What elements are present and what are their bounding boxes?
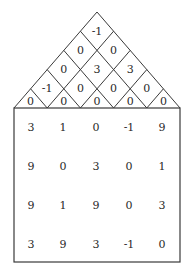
grid-cell: 0 (60, 160, 67, 173)
grid-cell: 0 (159, 238, 166, 251)
triangle-cell: 0 (94, 95, 101, 108)
triangle-cell: -1 (42, 82, 53, 95)
grid-cell: 0 (126, 199, 133, 212)
grid-cell: 3 (28, 238, 35, 251)
grid-cell: 3 (28, 121, 35, 134)
triangle-values: -1 0 0 0 3 3 -1 0 0 0 0 0 0 0 0 (27, 25, 167, 108)
triangle-cell: 0 (160, 95, 167, 108)
grid-cell: -1 (124, 121, 135, 134)
grid-cell: 3 (93, 160, 100, 173)
triangle-cell: -1 (92, 25, 103, 38)
triangle-cell: 0 (110, 82, 117, 95)
grid-cell: 9 (159, 121, 166, 134)
grid-cell: 9 (28, 199, 35, 212)
grid-cell: 9 (28, 160, 35, 173)
triangle-cell: 0 (27, 95, 34, 108)
grid-cell: 1 (60, 121, 67, 134)
triangle-cell: 0 (77, 44, 84, 57)
diagram-canvas: -1 0 0 0 3 3 -1 0 0 0 0 0 0 0 0 3 1 0 -1… (0, 0, 188, 273)
triangle-cell: 0 (60, 95, 67, 108)
triangle-grid-diagram: -1 0 0 0 3 3 -1 0 0 0 0 0 0 0 0 3 1 0 -1… (0, 0, 188, 273)
grid-cell: 9 (93, 199, 100, 212)
triangle-cell: 3 (127, 63, 134, 76)
grid-cell: 0 (126, 160, 133, 173)
lattice-line (80, 50, 130, 108)
grid-cell: 1 (60, 199, 67, 212)
grid-cell: 3 (159, 199, 166, 212)
triangle-cell: 0 (110, 44, 117, 57)
grid-cell: 9 (60, 238, 67, 251)
grid-cell: -1 (124, 238, 135, 251)
triangle-cell: 0 (77, 82, 84, 95)
triangle-cell: 0 (127, 95, 134, 108)
lattice-line (64, 50, 114, 108)
triangle-cell: 0 (60, 63, 67, 76)
grid-cell: 3 (93, 238, 100, 251)
triangle-cell: 0 (143, 82, 150, 95)
grid-cell: 1 (159, 160, 166, 173)
grid-cell: 0 (93, 121, 100, 134)
triangle-cell: 3 (94, 63, 101, 76)
